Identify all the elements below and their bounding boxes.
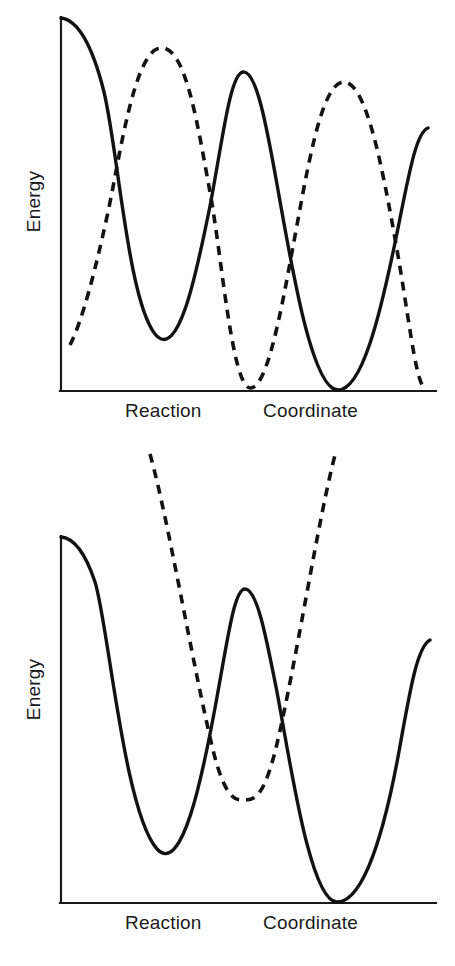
bottom-y-axis-label: Energy [24, 653, 43, 727]
bottom-x-axis-label-coordinate: Coordinate [263, 913, 358, 932]
top-x-axis-label-reaction: Reaction [125, 401, 202, 420]
energy-diagram-bottom: Energy Reaction Coordinate [0, 430, 455, 966]
top-plot-canvas [0, 0, 455, 430]
bottom-x-axis-label-reaction: Reaction [125, 913, 202, 932]
bottom-solid-energy-curve [61, 537, 430, 902]
bottom-plot-canvas [0, 430, 455, 966]
bottom-dashed-energy-curve [150, 454, 335, 800]
top-solid-energy-curve [61, 18, 428, 390]
top-x-axis-label-coordinate: Coordinate [263, 401, 358, 420]
top-y-axis-label: Energy [24, 165, 43, 239]
energy-diagram-top: Energy Reaction Coordinate [0, 0, 455, 430]
